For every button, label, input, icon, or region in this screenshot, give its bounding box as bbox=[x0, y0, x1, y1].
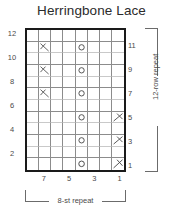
grid-cell bbox=[100, 88, 112, 100]
grid-cell bbox=[112, 77, 124, 89]
grid-cell bbox=[76, 135, 88, 147]
grid-cell bbox=[112, 158, 124, 170]
grid-cell bbox=[27, 147, 39, 159]
grid-cell bbox=[88, 112, 100, 124]
grid-cell bbox=[27, 77, 39, 89]
grid-cell bbox=[100, 30, 112, 42]
yarn-over-icon bbox=[76, 112, 87, 123]
grid-cell bbox=[51, 135, 63, 147]
left-leaning-decrease-icon bbox=[39, 42, 50, 53]
grid-cell bbox=[100, 53, 112, 65]
row-number-right: 3 bbox=[128, 138, 146, 146]
grid-cell bbox=[63, 53, 75, 65]
grid-cell bbox=[27, 158, 39, 170]
grid-cell bbox=[51, 30, 63, 42]
grid-cell bbox=[88, 158, 100, 170]
grid-cell bbox=[39, 77, 51, 89]
grid-cell bbox=[112, 147, 124, 159]
right-leaning-decrease-icon bbox=[112, 135, 124, 146]
grid-cell bbox=[39, 112, 51, 124]
grid-cell bbox=[112, 123, 124, 135]
stitch-chart-grid bbox=[25, 28, 126, 172]
yarn-over-icon bbox=[76, 135, 87, 146]
grid-cell bbox=[39, 158, 51, 170]
grid-cells bbox=[27, 30, 124, 170]
grid-cell bbox=[112, 53, 124, 65]
grid-cell bbox=[27, 88, 39, 100]
grid-cell bbox=[100, 100, 112, 112]
grid-cell bbox=[88, 88, 100, 100]
bracket-top-arm bbox=[145, 28, 158, 29]
grid-cell bbox=[100, 123, 112, 135]
grid-cell bbox=[51, 65, 63, 77]
grid-cell bbox=[63, 100, 75, 112]
grid-cell bbox=[39, 100, 51, 112]
grid-cell bbox=[100, 135, 112, 147]
row-number-right: 1 bbox=[128, 162, 146, 170]
grid-cell bbox=[51, 77, 63, 89]
knitting-chart-page: Herringbone Lace 12108642 1197531 7531 1… bbox=[0, 0, 183, 220]
grid-cell bbox=[100, 158, 112, 170]
grid-cell bbox=[39, 135, 51, 147]
row-number-right: 7 bbox=[128, 90, 146, 98]
grid-cell bbox=[112, 135, 124, 147]
yarn-over-icon bbox=[76, 42, 87, 53]
column-number: 3 bbox=[87, 175, 101, 183]
grid-cell bbox=[51, 42, 63, 54]
grid-cell bbox=[76, 158, 88, 170]
grid-cell bbox=[76, 88, 88, 100]
grid-cell bbox=[27, 53, 39, 65]
grid-cell bbox=[100, 42, 112, 54]
grid-cell bbox=[88, 53, 100, 65]
grid-cell bbox=[112, 100, 124, 112]
grid-cell bbox=[76, 123, 88, 135]
grid-cell bbox=[39, 30, 51, 42]
grid-cell bbox=[27, 65, 39, 77]
grid-cell bbox=[63, 112, 75, 124]
row-number-left: 8 bbox=[3, 78, 21, 86]
grid-cell bbox=[88, 65, 100, 77]
grid-cell bbox=[112, 42, 124, 54]
row-number-right: 5 bbox=[128, 114, 146, 122]
row-number-right: 11 bbox=[128, 42, 146, 50]
row-repeat-label: 12-row repeat bbox=[152, 54, 160, 100]
grid-cell bbox=[76, 42, 88, 54]
grid-cell bbox=[39, 88, 51, 100]
grid-cell bbox=[88, 77, 100, 89]
grid-cell bbox=[63, 88, 75, 100]
grid-cell bbox=[88, 100, 100, 112]
grid-cell bbox=[76, 147, 88, 159]
chart-title: Herringbone Lace bbox=[0, 3, 183, 18]
grid-cell bbox=[76, 65, 88, 77]
right-leaning-decrease-icon bbox=[112, 158, 124, 170]
left-leaning-decrease-icon bbox=[39, 88, 50, 99]
grid-cell bbox=[112, 30, 124, 42]
grid-cell bbox=[88, 147, 100, 159]
grid-cell bbox=[39, 53, 51, 65]
grid-cell bbox=[100, 147, 112, 159]
grid-cell bbox=[63, 135, 75, 147]
grid-cell bbox=[39, 42, 51, 54]
column-number: 1 bbox=[113, 175, 127, 183]
grid-cell bbox=[63, 158, 75, 170]
grid-cell bbox=[63, 77, 75, 89]
grid-cell bbox=[51, 100, 63, 112]
grid-cell bbox=[51, 158, 63, 170]
grid-cell bbox=[100, 112, 112, 124]
grid-cell bbox=[76, 77, 88, 89]
grid-cell bbox=[27, 135, 39, 147]
bracket-bottom-arm bbox=[145, 171, 158, 172]
row-repeat-bracket bbox=[145, 28, 158, 172]
grid-cell bbox=[39, 123, 51, 135]
yarn-over-icon bbox=[76, 88, 87, 99]
grid-cell bbox=[51, 112, 63, 124]
grid-cell bbox=[100, 65, 112, 77]
grid-cell bbox=[100, 77, 112, 89]
grid-cell bbox=[63, 42, 75, 54]
grid-cell bbox=[63, 147, 75, 159]
grid-cell bbox=[88, 42, 100, 54]
left-leaning-decrease-icon bbox=[39, 65, 50, 76]
grid-cell bbox=[51, 88, 63, 100]
grid-cell bbox=[39, 147, 51, 159]
grid-cell bbox=[63, 123, 75, 135]
